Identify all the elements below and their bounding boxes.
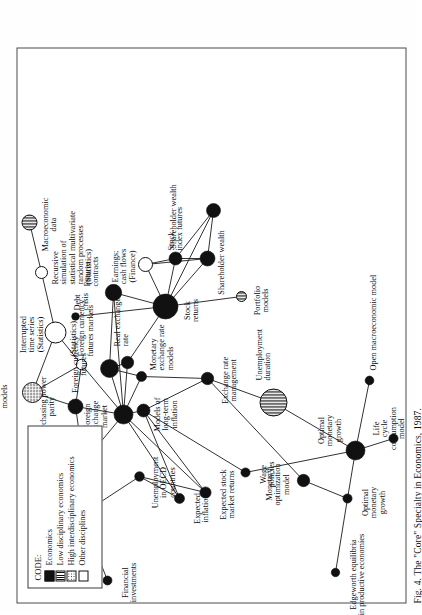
- graph-edge: [335, 498, 347, 572]
- graph-node-shareholder_wealth_b[interactable]: [206, 203, 220, 217]
- node-label-edgeworth: Edgeworth equilibria in productive econo…: [349, 533, 366, 615]
- graph-node-optimal_monetary_growth_b[interactable]: [346, 441, 365, 460]
- node-label-open_macro: Open macroeconomic model: [369, 274, 377, 370]
- legend-swatch-stripe-icon: [55, 570, 65, 581]
- node-label-expected_inflation: Expected inflation: [193, 493, 210, 524]
- graph-node-unemployment_duration[interactable]: [260, 389, 287, 416]
- legend-item: High interdisciplinary economics: [66, 432, 76, 581]
- node-label-interrupted_time_series: Interrupted time series (Statistics): [19, 316, 44, 353]
- node-label-macroeconomic_data: Macroeconomic data: [41, 197, 58, 251]
- node-label-life_cycle: Life cycle consumption model: [372, 407, 405, 450]
- figure-caption: Fig. 4. The "Core" Specialty in Economic…: [412, 47, 422, 603]
- node-label-unemployment_duration: Unemployment duration: [255, 328, 272, 380]
- legend-item: Economics: [44, 432, 54, 581]
- legend-item-label: Economics: [45, 529, 54, 565]
- legend-item-label: High interdisciplinary economics: [67, 456, 76, 565]
- legend-item: Other disciplines: [78, 432, 88, 581]
- node-label-composite_forecasting: Composite forecasting: Linear transfer-f…: [0, 356, 8, 435]
- legend-swatch-dot-icon: [66, 570, 76, 581]
- node-label-shareholder_wealth_b: Shareholder wealth: [169, 184, 177, 248]
- node-label-monetary_exchange_models: Monetary exchange rate models: [149, 324, 174, 370]
- graph-node-open_macro[interactable]: [365, 376, 374, 385]
- graph-node-macroeconomic_data[interactable]: [22, 215, 37, 230]
- graph-node-models_long_term_inflation[interactable]: [137, 404, 150, 417]
- node-label-optimal_monetary_growth_a: Optimal monetary growth: [361, 486, 386, 517]
- graph-node-monetary_exchange_models[interactable]: [136, 371, 146, 381]
- graph-node-exchange_rate_management[interactable]: [201, 372, 213, 384]
- node-label-earnings_cash_flows: Earnings; cash flows (Finance): [111, 248, 136, 283]
- node-label-futures_contracts: Futures contracts: [83, 256, 100, 286]
- graph-node-optimal_monetary_growth_a[interactable]: [342, 493, 351, 502]
- node-label-expected_stock_returns: Expected stock market returns: [219, 469, 236, 519]
- node-label-financial_investments: Financial investments: [121, 562, 138, 602]
- node-label-optimal_monetary_growth_b: Optimal monetary growth: [317, 414, 342, 445]
- graph-node-recursive_simulation[interactable]: [35, 266, 47, 278]
- graph-node-wage_policies[interactable]: [240, 467, 249, 476]
- node-label-portfolio_models: Portfolio models: [253, 285, 270, 315]
- graph-node-shareholder_wealth_a[interactable]: [200, 251, 215, 266]
- graph-node-interrupted_time_series[interactable]: [45, 322, 66, 343]
- legend-item-label: Low disciplinary economics: [56, 472, 65, 565]
- figure-frame: Financial investmentsPost-Keynsian monet…: [16, 47, 406, 603]
- node-label-real_exchange_rate: Real exchange rate: [113, 297, 130, 346]
- node-label-debt_crisis: Debt crisis: [73, 292, 90, 310]
- legend-item-label: Other disciplines: [78, 509, 87, 565]
- graph-edge: [141, 376, 207, 378]
- graph-node-real_exchange_rate[interactable]: [121, 356, 133, 368]
- graph-node-earnings_cash_flows[interactable]: [138, 257, 152, 271]
- graph-edge: [355, 380, 369, 450]
- graph-node-foreign_exchange_market_b[interactable]: [114, 405, 133, 424]
- node-label-exchange_rate_management: Exchange rate management: [221, 356, 238, 403]
- node-label-foreign_currency_futures: Foreign currency futures: [71, 336, 88, 393]
- graph-node-financial_investments[interactable]: [103, 576, 112, 585]
- graph-node-unemployment_oecd[interactable]: [134, 471, 144, 481]
- graph-node-stock_returns[interactable]: [153, 294, 178, 319]
- graph-node-foreign_currency_futures[interactable]: [100, 359, 118, 377]
- graph-node-purchasing_power_parity[interactable]: [68, 399, 83, 414]
- legend-item: Low disciplinary economics: [55, 432, 65, 581]
- legend-title: CODE:: [32, 432, 42, 580]
- legend-rows: EconomicsLow disciplinary economicsHigh …: [44, 432, 88, 581]
- graph-node-portfolio_models[interactable]: [236, 291, 246, 301]
- graph-node-edgeworth[interactable]: [331, 568, 339, 576]
- legend-swatch-solid-icon: [44, 570, 54, 581]
- node-label-stock_returns: Stock returns: [183, 298, 200, 321]
- graph-node-stock_index_futures[interactable]: [169, 252, 182, 265]
- node-label-wage_policies: Wage policies: [259, 461, 276, 487]
- legend-box: CODE: EconomicsLow disciplinary economic…: [27, 425, 102, 588]
- node-label-unemployment_oecd: Unemployment in OECD countries: [151, 456, 176, 508]
- node-label-models_long_term_inflation: Models of long-term inflation: [153, 397, 178, 431]
- legend-swatch-open-icon: [78, 570, 88, 581]
- node-label-shareholder_wealth_a: Shareholder wealth: [217, 230, 225, 294]
